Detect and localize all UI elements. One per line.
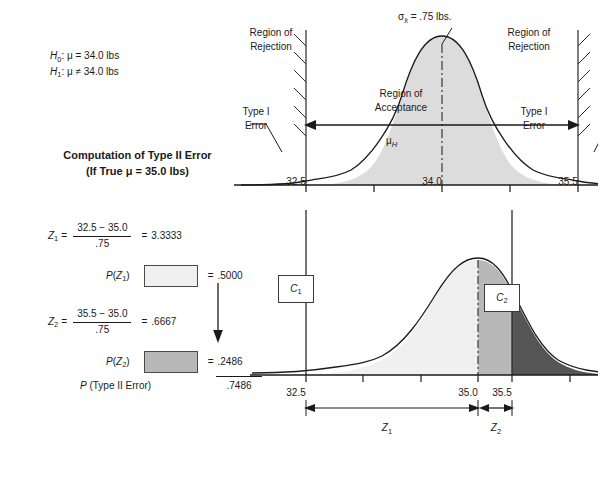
sigma-value: = .75 lbs.: [411, 11, 452, 22]
pz1-result-equals: =: [208, 270, 214, 283]
mu-h-label: μH: [386, 135, 397, 148]
z1-subscript: 1: [54, 234, 58, 243]
region-rejection-left-label: Region of Rejection: [238, 26, 304, 53]
z1-equals: =: [61, 230, 67, 243]
computation-title-line2: (If True μ = 35.0 lbs): [30, 164, 245, 180]
c1-box: C1: [278, 275, 314, 303]
ti-left-line2: Error: [232, 119, 280, 133]
mu-symbol: μ: [386, 135, 392, 146]
hypotheses-block: H0: μ = 34.0 lbs H1: μ ≠ 34.0 lbs: [50, 50, 119, 78]
z2-span-subscript: 2: [497, 427, 501, 436]
ti-right-line1: Type I: [510, 105, 558, 119]
region-acceptance-label: Region of Acceptance: [356, 87, 446, 114]
z2-denominator: .75: [73, 322, 131, 337]
type-i-error-left-label: Type I Error: [232, 105, 280, 132]
z2-equals: =: [61, 316, 67, 329]
c1-subscript: 1: [298, 287, 302, 296]
pz2-subscript: 2: [122, 360, 126, 369]
down-arrow-icon: [211, 283, 225, 345]
z1-fraction: 32.5 − 35.0 .75: [73, 222, 131, 250]
bottom-tick-label-2: 35.5: [486, 387, 518, 400]
z2-result: .6667: [151, 316, 176, 329]
region-rejection-right-label: Region of Rejection: [496, 26, 562, 53]
h0-subscript: 0: [57, 55, 61, 64]
z1-result-equals: =: [141, 230, 147, 243]
type-i-error-right-label: Type I Error: [510, 105, 558, 132]
rr-left-line2: Rejection: [238, 40, 304, 54]
h0-statement: : μ = 34.0 lbs: [61, 50, 119, 61]
z1-numerator: 32.5 − 35.0: [73, 222, 131, 236]
sigma-subscript: x̄: [404, 16, 408, 25]
ra-line1: Region of: [356, 87, 446, 101]
alt-hypothesis: H1: μ ≠ 34.0 lbs: [50, 66, 119, 79]
c2-subscript: 2: [504, 296, 508, 305]
z1-result: 3.3333: [151, 230, 182, 243]
z2-formula-row: Z2 = 35.5 − 35.0 .75 = .6667: [48, 308, 176, 336]
top-tick-label-2: 35.5: [552, 176, 584, 189]
total-rest: (Type II Error): [87, 380, 151, 391]
total-p: P: [80, 380, 87, 391]
z1-span-subscript: 1: [388, 427, 392, 436]
rr-left-line1: Region of: [238, 26, 304, 40]
z2-numerator: 35.5 − 35.0: [73, 308, 131, 322]
pz2-color-swatch: [144, 351, 198, 373]
pz2-p: P: [106, 356, 113, 369]
c2-symbol: C: [496, 292, 503, 303]
ti-right-line2: Error: [510, 119, 558, 133]
rr-right-line1: Region of: [496, 26, 562, 40]
z1-formula-row: Z1 = 32.5 − 35.0 .75 = 3.3333: [48, 222, 182, 250]
h1-statement: : μ ≠ 34.0 lbs: [61, 66, 118, 77]
ra-line2: Acceptance: [356, 101, 446, 115]
h1-subscript: 1: [57, 70, 61, 79]
pz2-result-equals: =: [208, 356, 214, 369]
c1-symbol: C: [290, 283, 297, 294]
top-tick-label-1: 34.0: [416, 176, 448, 189]
z1-denominator: .75: [73, 236, 131, 251]
z2-span-label: Z2: [483, 422, 509, 435]
pz1-close: ): [126, 270, 129, 283]
z1-span-label: Z1: [374, 422, 400, 435]
computation-title: Computation of Type II Error (If True μ …: [30, 148, 245, 180]
z2-subscript: 2: [54, 320, 58, 329]
z2-fraction: 35.5 − 35.0 .75: [73, 308, 131, 336]
null-hypothesis: H0: μ = 34.0 lbs: [50, 50, 119, 63]
pz2-close: ): [126, 356, 129, 369]
pz1-subscript: 1: [122, 274, 126, 283]
top-tick-label-0: 32.5: [280, 176, 312, 189]
computation-title-line1: Computation of Type II Error: [30, 148, 245, 164]
pz2-row: P (Z2) = .2486: [106, 351, 243, 373]
bottom-tick-label-0: 32.5: [280, 387, 312, 400]
pz1-p: P: [106, 270, 113, 283]
type-ii-total-label: P (Type II Error): [80, 380, 151, 393]
rr-right-line2: Rejection: [496, 40, 562, 54]
z2-result-equals: =: [141, 316, 147, 329]
bottom-tick-label-1: 35.0: [452, 387, 484, 400]
c2-box: C2: [484, 284, 520, 312]
ti-left-line1: Type I: [232, 105, 280, 119]
pz1-color-swatch: [144, 265, 198, 287]
sigma-label: σx̄ = .75 lbs.: [398, 11, 452, 24]
mu-subscript: H: [392, 140, 397, 149]
